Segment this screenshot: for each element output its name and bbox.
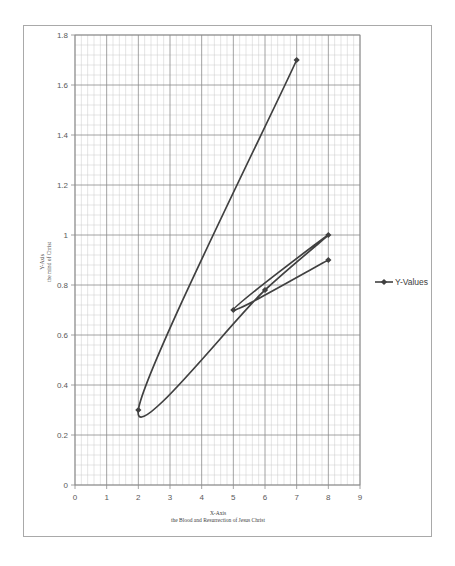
x-axis-tick-labels: 0123456789 xyxy=(73,485,363,502)
major-gridlines xyxy=(75,35,360,485)
y-tick-label: 1 xyxy=(64,231,69,240)
x-tick-label: 6 xyxy=(263,493,268,502)
y-tick-label: 0.6 xyxy=(57,331,69,340)
y-tick-label: 0 xyxy=(64,481,69,490)
x-tick-label: 1 xyxy=(104,493,109,502)
x-tick-label: 0 xyxy=(73,493,78,502)
y-tick-label: 1.6 xyxy=(57,81,69,90)
y-axis-title: Y-Axis xyxy=(39,254,45,270)
x-tick-label: 4 xyxy=(199,493,204,502)
y-tick-label: 1.2 xyxy=(57,181,69,190)
x-tick-label: 5 xyxy=(231,493,236,502)
legend-diamond-marker-icon xyxy=(381,279,387,285)
data-point-diamond-marker xyxy=(135,407,141,413)
minor-gridlines xyxy=(75,35,360,485)
y-axis-tick-labels: 00.20.40.60.811.21.41.61.8 xyxy=(57,31,75,490)
y-tick-label: 1.8 xyxy=(57,31,69,40)
x-axis-title: X-Axis xyxy=(210,510,226,516)
chart: 00.20.40.60.811.21.41.61.8 0123456789 Y-… xyxy=(0,0,455,566)
y-tick-label: 0.4 xyxy=(57,381,69,390)
legend: Y-Values xyxy=(375,277,428,287)
x-tick-label: 2 xyxy=(136,493,141,502)
y-tick-label: 1.4 xyxy=(57,131,69,140)
x-tick-label: 3 xyxy=(168,493,173,502)
y-tick-label: 0.2 xyxy=(57,431,69,440)
x-tick-label: 8 xyxy=(326,493,331,502)
y-tick-label: 0.8 xyxy=(57,281,69,290)
plot-area-border xyxy=(75,35,360,485)
data-point-diamond-marker xyxy=(294,57,300,63)
x-tick-label: 7 xyxy=(294,493,299,502)
y-axis-subtitle: the mind of Christ xyxy=(46,241,52,282)
x-tick-label: 9 xyxy=(358,493,363,502)
data-point-diamond-marker xyxy=(325,257,331,263)
legend-entry-label: Y-Values xyxy=(395,277,428,287)
x-axis-subtitle: the Blood and Resurrection of Jesus Chri… xyxy=(171,517,266,523)
